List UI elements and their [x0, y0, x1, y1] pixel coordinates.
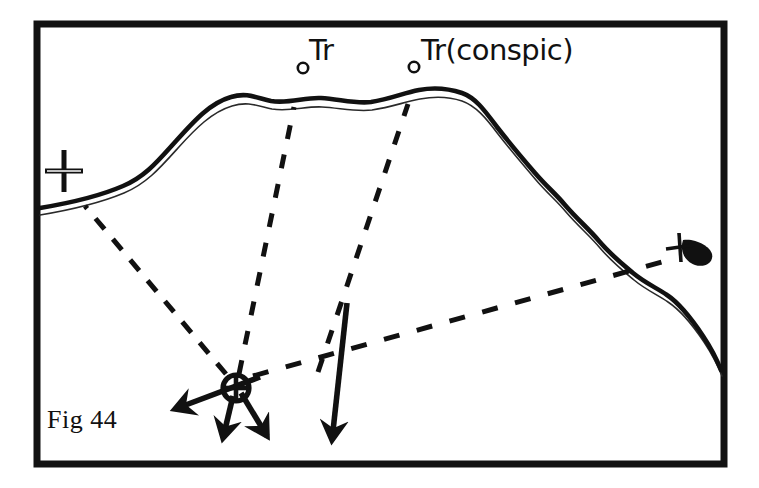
beacon-blob-marker[interactable]	[666, 233, 712, 266]
arrow-long-south	[332, 303, 347, 440]
bearing-to-tower-left	[239, 107, 294, 374]
figure-container: Tr Tr(conspic) Fig 44	[0, 0, 759, 488]
bearing-to-church-cross	[85, 206, 226, 374]
tower-marker-right[interactable]	[409, 62, 419, 72]
beacon-teardrop-shape	[682, 240, 712, 266]
bearing-to-tower-right	[318, 104, 408, 372]
figure-caption: Fig 44	[47, 407, 117, 433]
tower-label-left: Tr	[309, 36, 333, 65]
bearing-to-beacon-blob	[253, 258, 676, 376]
coastline-thick-line	[40, 89, 721, 370]
church-cross-marker[interactable]	[45, 150, 83, 192]
figure-frame	[37, 24, 724, 464]
coastline-thin-line	[40, 97, 722, 376]
observer-fix-symbol[interactable]	[223, 375, 249, 401]
tower-marker-left[interactable]	[298, 63, 308, 73]
tower-label-right: Tr(conspic)	[421, 36, 573, 65]
